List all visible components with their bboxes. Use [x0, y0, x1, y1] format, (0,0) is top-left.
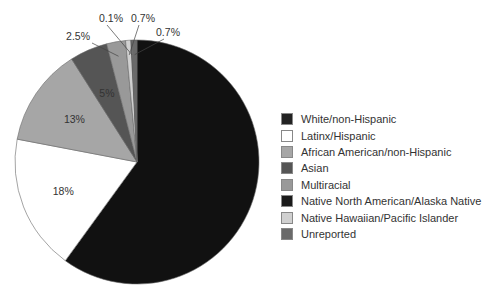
legend-item-unreported: Unreported: [281, 226, 481, 242]
slice-label: 18%: [53, 185, 74, 197]
legend-item-latinx: Latinx/Hispanic: [281, 127, 481, 143]
legend-item-native-north-american: Native North American/Alaska Native: [281, 193, 481, 209]
legend-label: Native North American/Alaska Native: [301, 195, 481, 207]
legend-swatch: [281, 146, 293, 158]
legend-swatch: [281, 179, 293, 191]
legend-label: Latinx/Hispanic: [301, 130, 376, 142]
legend-label: Unreported: [301, 228, 356, 240]
legend-swatch: [281, 212, 293, 224]
legend-item-multiracial: Multiracial: [281, 177, 481, 193]
slice-label: 13%: [64, 113, 85, 125]
legend-item-white: White/non-Hispanic: [281, 111, 481, 127]
legend-item-african-american: African American/non-Hispanic: [281, 144, 481, 160]
legend-label: Asian: [301, 162, 329, 174]
legend-swatch: [281, 228, 293, 240]
slice-label: 5%: [99, 87, 114, 99]
legend-label: Multiracial: [301, 179, 351, 191]
legend-item-asian: Asian: [281, 160, 481, 176]
legend-swatch: [281, 162, 293, 174]
legend-label: Native Hawaiian/Pacific Islander: [301, 212, 458, 224]
legend-label: White/non-Hispanic: [301, 113, 396, 125]
slice-label: 0.7%: [131, 12, 155, 24]
legend-item-native-hawaiian: Native Hawaiian/Pacific Islander: [281, 209, 481, 225]
legend-label: African American/non-Hispanic: [301, 146, 451, 158]
slice-label: 0.1%: [99, 12, 123, 24]
legend-swatch: [281, 130, 293, 142]
slice-label: 2.5%: [66, 30, 90, 42]
legend-swatch: [281, 113, 293, 125]
legend: White/non-Hispanic Latinx/Hispanic Afric…: [281, 111, 481, 242]
slice-label: 0.7%: [156, 26, 180, 38]
legend-swatch: [281, 195, 293, 207]
